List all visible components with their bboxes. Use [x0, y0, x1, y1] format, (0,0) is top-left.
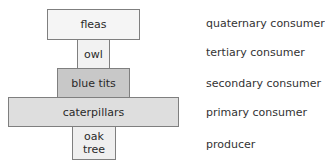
level-owl: owl: [77, 39, 110, 69]
organism-label: fleas: [80, 18, 106, 31]
level-caterpillars: caterpillars: [8, 97, 179, 127]
trophic-label-primary: primary consumer: [206, 106, 307, 119]
organism-label: owl: [84, 48, 103, 61]
level-oak-tree: oak tree: [72, 126, 116, 160]
trophic-label-quaternary: quaternary consumer: [206, 17, 325, 30]
level-fleas: fleas: [47, 9, 140, 40]
organism-label: caterpillars: [63, 106, 125, 119]
organism-label-line1: oak: [84, 130, 104, 143]
level-blue-tits: blue tits: [57, 68, 130, 98]
trophic-label-tertiary: tertiary consumer: [206, 46, 305, 59]
organism-label: blue tits: [71, 77, 116, 90]
trophic-label-secondary: secondary consumer: [206, 77, 321, 90]
trophic-label-producer: producer: [206, 138, 255, 151]
organism-label-line2: tree: [83, 143, 105, 156]
